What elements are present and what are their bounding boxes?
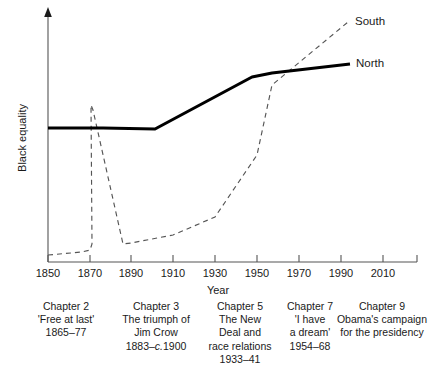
caption-line: The triumph of: [104, 313, 208, 326]
caption-line: 1865–77: [18, 326, 114, 339]
caption-line: Chapter 9: [330, 300, 434, 313]
caption-chapter-3: Chapter 3 The triumph of Jim Crow 1883–c…: [104, 300, 208, 353]
caption-line: The New: [196, 313, 284, 326]
series-label-south: South: [355, 15, 385, 27]
chapter-captions: Chapter 2 'Free at last' 1865–77 Chapter…: [0, 300, 434, 369]
caption-line: 'Free at last': [18, 313, 114, 326]
caption-line: 1954–68: [274, 340, 346, 353]
caption-chapter-5: Chapter 5 The New Deal and race relation…: [196, 300, 284, 366]
caption-line: Chapter 2: [18, 300, 114, 313]
xtick-label-1990: 1990: [329, 267, 353, 279]
series-label-north: North: [356, 57, 384, 69]
caption-line: Obama's campaign: [330, 313, 434, 326]
xtick-label-1850: 1850: [36, 267, 60, 279]
xtick-label-1970: 1970: [287, 267, 311, 279]
series-line-south: [48, 22, 348, 255]
xtick-label-2010: 2010: [371, 267, 395, 279]
x-axis-ticks: [48, 255, 417, 262]
circa-abbrev: c.: [155, 340, 163, 352]
xtick-label-1930: 1930: [203, 267, 227, 279]
caption-line: Jim Crow: [104, 326, 208, 339]
xtick-label-1890: 1890: [119, 267, 143, 279]
caption-line: for the presidency: [330, 326, 434, 339]
caption-line: Chapter 5: [196, 300, 284, 313]
caption-chapter-9: Chapter 9 Obama's campaign for the presi…: [330, 300, 434, 340]
date-range-pre: 1883–: [126, 340, 155, 352]
x-axis-title: Year: [207, 284, 230, 296]
caption-chapter-2: Chapter 2 'Free at last' 1865–77: [18, 300, 114, 340]
xtick-label-1870: 1870: [78, 267, 102, 279]
caption-line-date-range: 1883–c.1900: [104, 340, 208, 353]
y-axis-arrow-icon: [44, 7, 52, 17]
date-range-post: 1900: [163, 340, 186, 352]
xtick-label-1950: 1950: [245, 267, 269, 279]
caption-line: Deal and: [196, 326, 284, 339]
figure-container: 1850 1870 1890 1910 1930 1950 1970 1990 …: [0, 0, 434, 369]
y-axis-title: Black equality: [16, 104, 28, 172]
caption-line: race relations: [196, 340, 284, 353]
xtick-label-1910: 1910: [161, 267, 185, 279]
series-line-north: [48, 64, 350, 129]
caption-line: 1933–41: [196, 353, 284, 366]
caption-line: Chapter 3: [104, 300, 208, 313]
